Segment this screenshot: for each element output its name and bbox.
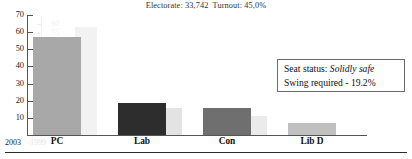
legend-year-current: 2003 [5, 138, 21, 147]
bar-current-lib-d [288, 123, 336, 135]
y-tick-label: 70 [2, 11, 24, 19]
category-label-con: Con [195, 137, 259, 146]
y-tick-label: 20 [2, 97, 24, 105]
seat-status-row: Seat status: Solidly safe [284, 62, 399, 76]
y-tick-label: 60 [2, 28, 24, 36]
swing-required-row: Swing required - 19.2% [284, 76, 399, 90]
bar-current-con [203, 108, 251, 135]
y-tick-label: 10 [2, 114, 24, 122]
seat-status-label: Seat status: [284, 63, 327, 74]
category-label-lib-d: Lib D [280, 137, 344, 146]
y-tick-label: 50 [2, 45, 24, 53]
election-bar-chart: Electorate: 33,742 Turnout: 45,0% 102030… [0, 0, 412, 159]
y-tick-label: 40 [2, 62, 24, 70]
bar-current-pc [33, 37, 81, 135]
bar-current-lab [118, 103, 166, 135]
y-tick-label: 30 [2, 80, 24, 88]
bottom-divider [5, 152, 407, 153]
legend-year-previous: 1999 [30, 138, 46, 147]
chart-header: Electorate: 33,742 Turnout: 45,0% [0, 1, 412, 10]
seat-status-box: Seat status: Solidly safe Swing required… [277, 59, 405, 92]
seat-status-value: Solidly safe [330, 63, 375, 74]
category-label-lab: Lab [110, 137, 174, 146]
